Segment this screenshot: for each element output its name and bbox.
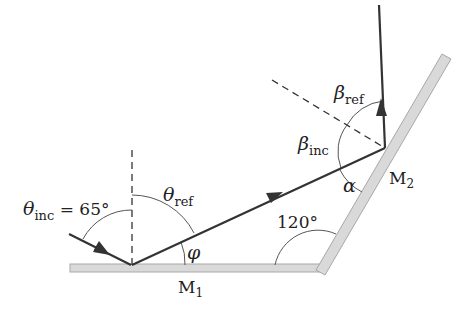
- arc-phi: [181, 242, 185, 265]
- label-beta-inc: βinc: [298, 134, 329, 153]
- diagram-svg: [0, 0, 471, 317]
- reflected-ray-arrowhead: [376, 98, 387, 116]
- diagram-canvas: θinc = 65° θref φ 120° α βinc βref M1 M2: [0, 0, 471, 317]
- label-beta-ref: βref: [334, 83, 364, 102]
- reflected-ray: [379, 5, 385, 148]
- label-mirror-m2: M2: [389, 170, 414, 187]
- label-phi: φ: [187, 243, 200, 262]
- label-theta-inc: θinc = 65°: [23, 199, 109, 218]
- arc-beta-inc: [338, 125, 347, 168]
- label-mirror-m1: M1: [178, 279, 203, 296]
- label-alpha: α: [343, 176, 356, 195]
- label-120-degrees: 120°: [277, 214, 318, 231]
- mirror-m1: [70, 264, 320, 272]
- label-theta-ref: θref: [163, 185, 193, 204]
- incident-ray-arrowhead: [93, 241, 110, 255]
